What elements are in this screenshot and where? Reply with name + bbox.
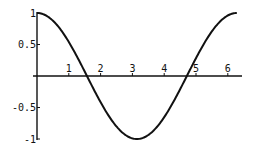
x-tick-label: 2: [98, 63, 104, 74]
x-tick-label: 1: [66, 63, 72, 74]
y-tick-label: 0.5: [18, 39, 36, 50]
x-tick-label: 4: [161, 63, 167, 74]
x-tick-label: 6: [225, 63, 231, 74]
axes: 12345610.5-0.5-1: [12, 8, 242, 145]
x-tick-label: 5: [193, 63, 199, 74]
y-tick-label: -0.5: [12, 102, 36, 113]
y-tick-label: 1: [30, 8, 36, 19]
x-tick-label: 3: [129, 63, 135, 74]
cosine-plot: 12345610.5-0.5-1: [0, 0, 254, 153]
y-tick-label: -1: [24, 134, 36, 145]
